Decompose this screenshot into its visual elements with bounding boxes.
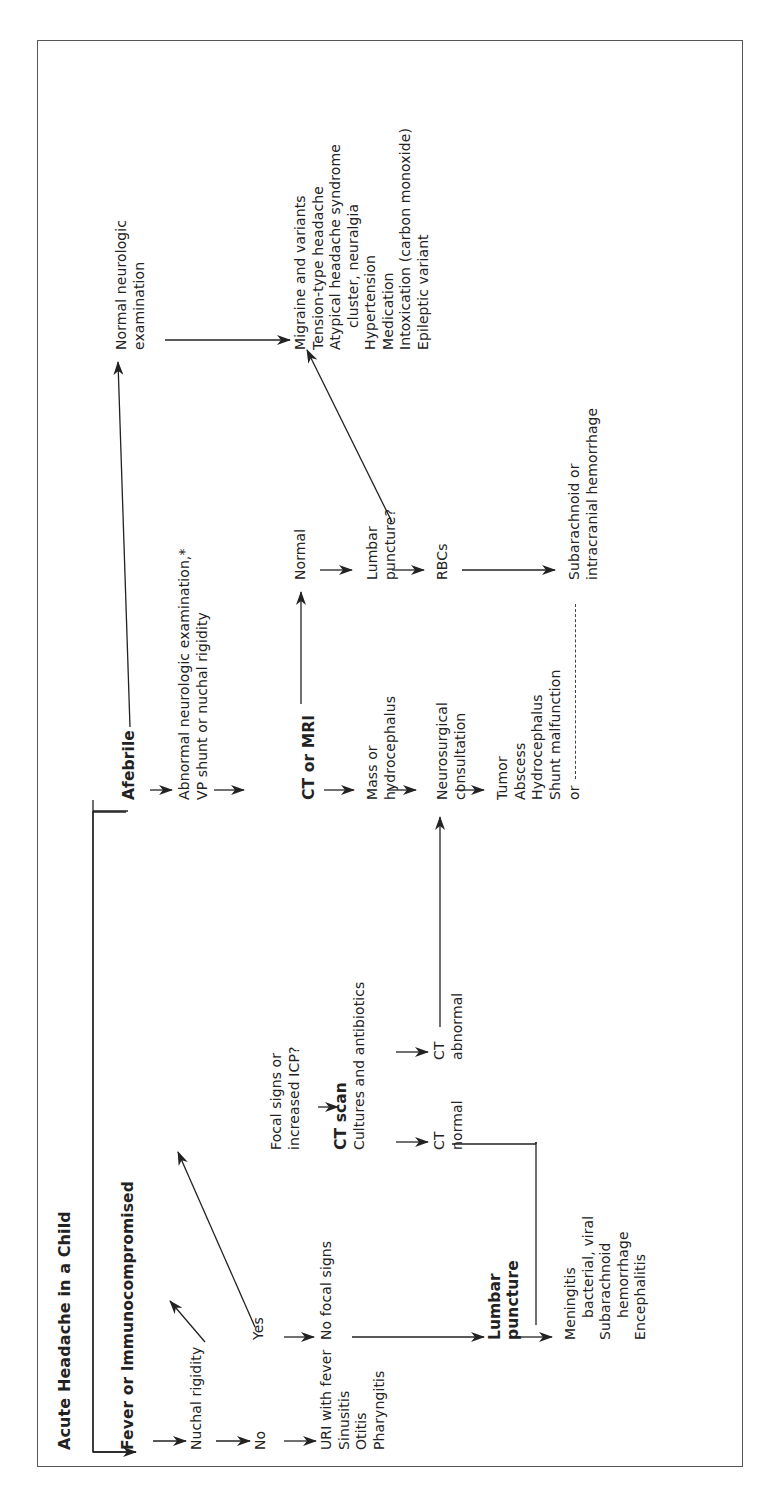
node-mass: Mass or hydrocephalus	[364, 696, 399, 800]
lpq-line-1: Lumbar	[364, 509, 382, 580]
diagnosis-item: cluster, neuralgia	[345, 128, 363, 350]
lp-line-1: Lumbar	[486, 1260, 504, 1340]
dashed-connector	[575, 604, 576, 779]
node-abnormal-exam: Abnormal neurologic examination,* VP shu…	[176, 549, 211, 801]
node-neuro-diagnoses: Tumor Abscess Hydrocephalus Shunt malfun…	[494, 670, 564, 800]
node-lumbar-puncture-q: Lumbar puncture?	[364, 509, 399, 580]
node-ct-abnormal: CT abnormal	[431, 993, 466, 1060]
mass-line-1: Mass or	[364, 696, 382, 800]
diagnosis-item: Sinusitis	[336, 1350, 354, 1450]
abnormal-exam-line-2: VP shunt or nuchal rigidity	[194, 549, 212, 801]
diagnosis-item: Medication	[380, 128, 398, 350]
node-fever: Fever or Immunocompromised	[120, 1181, 138, 1450]
diagnosis-item: Tumor	[494, 670, 512, 800]
node-rbcs: RBCs	[434, 543, 452, 580]
node-nuchal-rigidity: Nuchal rigidity	[188, 1347, 206, 1450]
diagnosis-item: Migraine and variants	[292, 128, 310, 350]
ct-abnormal-label: abnormal	[449, 993, 467, 1060]
normal-exam-line-1: Normal neurologic	[113, 220, 131, 350]
node-focal-signs: Focal signs or increased ICP?	[268, 1046, 303, 1150]
flowchart-canvas: Acute Headache in a Child Fever or Immun…	[0, 0, 760, 1497]
node-normal: Normal	[292, 529, 310, 580]
node-or: or	[566, 604, 584, 800]
node-ct-normal: CT normal	[431, 1100, 466, 1150]
ct-normal-ct: CT	[431, 1100, 449, 1150]
diagram-title: Acute Headache in a Child	[56, 1211, 74, 1450]
node-lumbar-puncture: Lumbar puncture	[486, 1260, 522, 1340]
focal-signs-line-1: Focal signs or	[268, 1046, 286, 1150]
hemorrhage-line-2: intracranial hemorrhage	[584, 408, 602, 580]
node-no: No	[252, 1431, 270, 1450]
diagnosis-item: hemorrhage	[615, 1216, 633, 1340]
diagnosis-item: Encephalitis	[632, 1216, 650, 1340]
hemorrhage-line-1: Subarachnoid or	[566, 408, 584, 580]
abnormal-exam-line-1: Abnormal neurologic examination,*	[176, 549, 194, 801]
diagnosis-item: Atypical headache syndrome	[327, 128, 345, 350]
diagnosis-item: Hypertension	[362, 128, 380, 350]
node-ct-scan: CT scan Cultures and antibiotics	[333, 982, 368, 1150]
node-neurosurgical: Neurosurgical consultation	[434, 702, 469, 800]
diagnosis-item: URI with fever	[318, 1350, 336, 1450]
neurosurgical-line-2: consultation	[452, 702, 470, 800]
node-lp-diagnoses: Meningitis bacterial, viral Subarachnoid…	[562, 1216, 650, 1340]
diagnosis-item: Subarachnoid	[597, 1216, 615, 1340]
node-no-diagnoses: URI with fever Sinusitis Otitis Pharyngi…	[318, 1350, 388, 1450]
lpq-line-2: puncture?	[382, 509, 400, 580]
diagnosis-item: Abscess	[512, 670, 530, 800]
node-hemorrhage: Subarachnoid or intracranial hemorrhage	[566, 408, 601, 580]
diagnosis-item: Meningitis	[562, 1216, 580, 1340]
node-afebrile: Afebrile	[121, 730, 139, 800]
or-label: or	[566, 785, 582, 800]
diagnosis-item: Otitis	[353, 1350, 371, 1450]
diagnosis-item: Epileptic variant	[415, 128, 433, 350]
lp-line-2: puncture	[504, 1260, 522, 1340]
diagnosis-item: bacterial, viral	[580, 1216, 598, 1340]
mass-line-2: hydrocephalus	[382, 696, 400, 800]
diagnosis-item: Shunt malfunction	[547, 670, 565, 800]
ct-normal-label: normal	[449, 1100, 467, 1150]
diagnosis-item: Hydrocephalus	[529, 670, 547, 800]
node-no-focal-signs: No focal signs	[318, 1241, 336, 1340]
cultures-label: Cultures and antibiotics	[351, 982, 369, 1150]
normal-exam-line-2: examination	[131, 220, 149, 350]
neurosurgical-line-1: Neurosurgical	[434, 702, 452, 800]
diagnosis-item: Pharyngitis	[371, 1350, 389, 1450]
ct-abnormal-ct: CT	[431, 993, 449, 1060]
node-yes: Yes	[250, 1317, 268, 1340]
focal-signs-line-2: increased ICP?	[286, 1046, 304, 1150]
ct-scan-label: CT scan	[333, 982, 351, 1150]
node-normal-exam: Normal neurologic examination	[113, 220, 148, 350]
node-benign-diagnoses: Migraine and variants Tension-type heada…	[292, 128, 432, 350]
node-ct-or-mri: CT or MRI	[301, 715, 319, 800]
diagnosis-item: Tension-type headache	[310, 128, 328, 350]
diagnosis-item: Intoxication (carbon monoxide)	[397, 128, 415, 350]
